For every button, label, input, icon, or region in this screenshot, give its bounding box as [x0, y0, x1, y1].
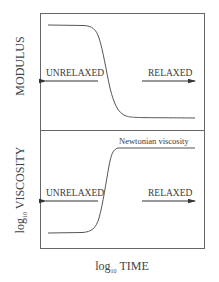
- bottom-relaxed-label: RELAXED: [148, 188, 192, 198]
- time-log-prefix: log: [95, 259, 110, 273]
- viscosity-axis-label: log10 VISCOSITY: [13, 146, 28, 233]
- modulus-axis-label: MODULUS: [13, 36, 27, 95]
- top-unrelaxed-label: UNRELAXED: [46, 68, 104, 78]
- svg-text:log10 VISCOSITY: log10 VISCOSITY: [13, 146, 28, 233]
- newtonian-viscosity-label: Newtonian viscosity: [119, 136, 189, 146]
- viscosity-log-prefix: log: [13, 218, 27, 233]
- time-label-main: TIME: [119, 259, 148, 273]
- top-relaxed-label: RELAXED: [148, 68, 192, 78]
- time-axis-label: log10 TIME: [95, 259, 148, 274]
- relaxation-diagram: UNRELAXED RELAXED Newtonian viscosity UN…: [0, 0, 219, 282]
- viscosity-label-main: VISCOSITY: [13, 146, 27, 209]
- bottom-unrelaxed-label: UNRELAXED: [46, 188, 104, 198]
